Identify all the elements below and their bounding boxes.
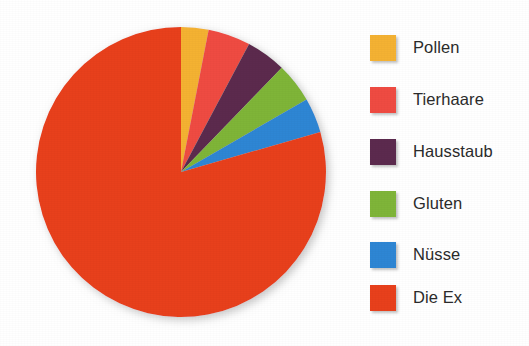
pie-chart-figure: PollenTierhaareHausstaubGlutenNüsseDie E…: [0, 0, 529, 346]
color-swatch-icon: [370, 191, 396, 217]
pie-chart-svg: [0, 0, 360, 346]
legend-item-label: Tierhaare: [413, 91, 484, 108]
legend-item-label: Nüsse: [413, 246, 460, 263]
legend-item-label: Die Ex: [413, 289, 462, 306]
color-swatch-icon: [370, 242, 396, 268]
legend-item-pollen[interactable]: Pollen: [370, 34, 459, 61]
legend-item-gluten[interactable]: Gluten: [370, 190, 462, 217]
legend-item-label: Gluten: [413, 195, 462, 212]
color-swatch-icon: [370, 285, 396, 311]
legend-item-label: Pollen: [413, 39, 459, 56]
chart-legend: PollenTierhaareHausstaubGlutenNüsseDie E…: [370, 0, 529, 346]
legend-item-tierhaare[interactable]: Tierhaare: [370, 86, 484, 113]
color-swatch-icon: [370, 87, 396, 113]
legend-item-die-ex[interactable]: Die Ex: [370, 284, 462, 311]
color-swatch-icon: [370, 139, 396, 165]
legend-item-nüsse[interactable]: Nüsse: [370, 241, 460, 268]
pie-slice-group: [36, 27, 326, 317]
color-swatch-icon: [370, 35, 396, 61]
legend-item-label: Hausstaub: [413, 143, 493, 160]
legend-item-hausstaub[interactable]: Hausstaub: [370, 138, 493, 165]
pie-chart-plot-area: [0, 0, 360, 346]
